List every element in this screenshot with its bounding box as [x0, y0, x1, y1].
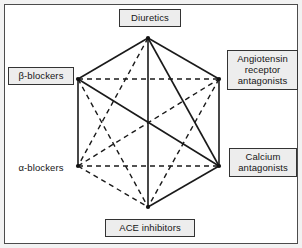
edge-angiotensin-ace-inhibitors	[148, 79, 219, 207]
vertex-dot-calcium	[217, 164, 221, 168]
node-label-ace-inhibitors[interactable]: ACE inhibitors	[105, 219, 195, 237]
vertex-dot-beta-blockers	[76, 77, 80, 81]
edge-beta-blockers-ace-inhibitors	[78, 79, 148, 207]
vertex-dot-ace-inhibitors	[146, 205, 150, 209]
node-label-alpha-blockers: α-blockers	[8, 160, 74, 173]
edge-diuretics-calcium	[148, 38, 219, 166]
node-label-calcium-antagonists[interactable]: Calcium antagonists	[229, 148, 297, 177]
node-label-beta-blockers[interactable]: β-blockers	[8, 67, 74, 85]
edge-calcium-ace-inhibitors	[148, 166, 219, 207]
edge-alpha-blockers-ace-inhibitors	[78, 166, 148, 207]
figure-root: Diuretics Angiotensin receptor antagonis…	[0, 0, 302, 248]
node-label-diuretics[interactable]: Diuretics	[119, 9, 181, 27]
edge-diuretics-alpha-blockers	[78, 38, 148, 166]
edge-diuretics-beta-blockers	[78, 38, 148, 79]
vertex-dot-diuretics	[146, 36, 150, 40]
vertex-dot-angiotensin	[217, 77, 221, 81]
hexagon-diagram	[0, 0, 302, 248]
node-label-angiotensin-receptor-antagonists[interactable]: Angiotensin receptor antagonists	[227, 50, 298, 90]
vertex-dot-alpha-blockers	[76, 164, 80, 168]
